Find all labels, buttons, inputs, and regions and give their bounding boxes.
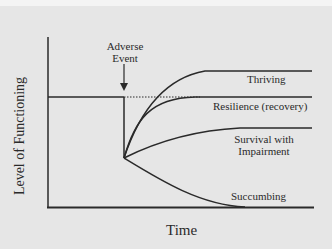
curve-succumbing [124, 158, 245, 207]
arrow-head-icon [120, 83, 128, 91]
label-survival: Survival with Impairment [224, 133, 304, 157]
event-label: Adverse Event [104, 40, 146, 64]
label-succumbing: Succumbing [231, 190, 286, 202]
label-resilience: Resilience (recovery) [213, 100, 307, 112]
x-axis-label: Time [166, 222, 197, 239]
event-label-line1: Adverse [104, 40, 146, 52]
label-thriving: Thriving [247, 73, 286, 85]
label-survival-line2: Impairment [224, 145, 304, 157]
y-axis-label: Level of Functioning [12, 76, 28, 196]
resilience-diagram [0, 0, 332, 249]
event-label-line2: Event [104, 52, 146, 64]
label-survival-line1: Survival with [224, 133, 304, 145]
